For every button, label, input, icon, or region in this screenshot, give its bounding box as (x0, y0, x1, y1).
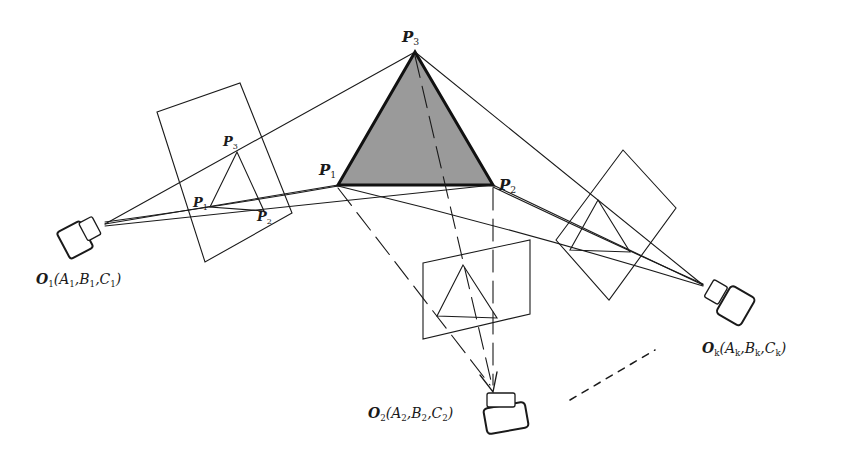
label-p3: P3 (402, 30, 419, 47)
camera-icon-k (704, 279, 756, 326)
image-plane-middle (423, 240, 530, 339)
world-triangle (338, 52, 493, 185)
label-camera-k: Ok(Ak,Bk,Ck) (702, 341, 786, 358)
label-image-p1: P1 (193, 196, 208, 212)
label-p2: P2 (499, 178, 516, 195)
image-plane-left (157, 83, 292, 262)
camera-icon-1 (56, 216, 101, 259)
diagram-canvas: P3 P1 P2 P3 P1 P2 O1(A1,B1,C1) O2(A2,B2,… (0, 0, 845, 464)
camera-icon-2 (483, 393, 529, 434)
label-p1: P1 (319, 163, 336, 180)
label-camera-2: O2(A2,B2,C2) (368, 406, 453, 423)
ellipsis-dashed-line (570, 350, 655, 400)
label-image-p2: P2 (257, 210, 272, 226)
diagram-graphics (0, 0, 845, 464)
label-camera-1: O1(A1,B1,C1) (36, 272, 121, 289)
label-image-p3: P3 (223, 135, 238, 151)
